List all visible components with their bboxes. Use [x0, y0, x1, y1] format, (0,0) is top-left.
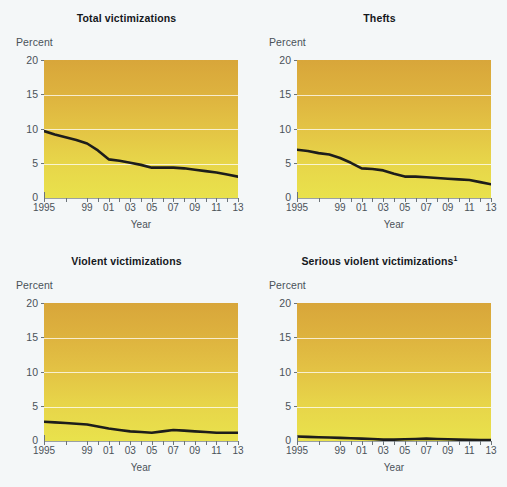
x-tick-mark-minor	[437, 441, 438, 445]
x-tick-label: 09	[189, 202, 200, 213]
x-tick-label: 09	[442, 445, 453, 456]
x-tick-label: 13	[232, 445, 243, 456]
x-tick-mark-minor	[119, 441, 120, 445]
x-tick-mark	[130, 198, 131, 202]
y-tick-label: 0	[251, 192, 291, 203]
x-tick-mark-minor	[66, 198, 67, 202]
x-tick-mark	[491, 441, 492, 445]
y-tick-mark	[294, 337, 297, 338]
x-tick-label: 07	[421, 445, 432, 456]
y-tick-label: 15	[251, 89, 291, 100]
x-tick-mark	[405, 441, 406, 445]
x-tick-mark	[426, 198, 427, 202]
y-tick-mark	[41, 372, 44, 373]
y-tick-mark	[41, 129, 44, 130]
x-tick-mark	[383, 441, 384, 445]
x-tick-mark	[152, 198, 153, 202]
x-tick-mark-minor	[206, 198, 207, 202]
x-tick-mark-minor	[163, 198, 164, 202]
x-tick-mark-minor	[372, 441, 373, 445]
x-tick-label: 03	[378, 202, 389, 213]
x-tick-mark-minor	[163, 441, 164, 445]
y-tick-label: 5	[251, 401, 291, 412]
y-tick-label: 10	[0, 124, 38, 135]
y-tick-label: 15	[0, 332, 38, 343]
y-tick-mark	[294, 60, 297, 61]
x-tick-mark	[448, 198, 449, 202]
x-tick-mark-minor	[319, 198, 320, 202]
x-tick-mark	[216, 198, 217, 202]
x-tick-mark	[173, 441, 174, 445]
x-tick-mark	[448, 441, 449, 445]
x-tick-label: 99	[335, 202, 346, 213]
x-tick-mark	[195, 198, 196, 202]
x-tick-label: 05	[399, 445, 410, 456]
x-tick-label: 13	[232, 202, 243, 213]
x-tick-label: 03	[125, 445, 136, 456]
x-tick-mark-minor	[480, 441, 481, 445]
x-tick-mark	[109, 441, 110, 445]
x-tick-label: 13	[485, 445, 496, 456]
x-tick-label: 05	[146, 445, 157, 456]
x-tick-mark	[469, 198, 470, 202]
y-tick-label: 20	[251, 298, 291, 309]
x-tick-mark-minor	[394, 198, 395, 202]
x-tick-mark-minor	[351, 441, 352, 445]
x-tick-mark-minor	[351, 198, 352, 202]
x-tick-label: 1995	[286, 202, 308, 213]
y-tick-label: 15	[251, 332, 291, 343]
y-tick-mark	[294, 163, 297, 164]
x-tick-mark-minor	[227, 441, 228, 445]
x-tick-label: 05	[399, 202, 410, 213]
y-tick-label: 0	[0, 192, 38, 203]
chart-panel-total-victimizations: Total victimizations Percent 20 15 10 5 …	[0, 0, 253, 243]
x-tick-mark-minor	[141, 441, 142, 445]
x-tick-label: 05	[146, 202, 157, 213]
x-tick-mark	[491, 198, 492, 202]
x-tick-mark-minor	[184, 198, 185, 202]
y-tick-label: 0	[0, 435, 38, 446]
x-tick-mark-minor	[119, 198, 120, 202]
y-tick-label: 0	[251, 435, 291, 446]
x-tick-mark	[109, 198, 110, 202]
x-tick-mark	[297, 441, 298, 445]
x-tick-mark-minor	[66, 441, 67, 445]
x-axis-label: Year	[44, 219, 238, 230]
y-tick-mark	[41, 406, 44, 407]
x-tick-mark-minor	[98, 441, 99, 445]
y-tick-label: 10	[251, 124, 291, 135]
x-tick-mark-minor	[184, 441, 185, 445]
x-tick-label: 11	[211, 445, 221, 456]
x-tick-mark	[238, 198, 239, 202]
x-axis-label: Year	[44, 462, 238, 473]
x-tick-mark	[130, 441, 131, 445]
x-tick-label: 09	[189, 445, 200, 456]
x-tick-label: 03	[125, 202, 136, 213]
y-tick-mark	[294, 129, 297, 130]
y-tick-mark	[41, 163, 44, 164]
x-tick-mark-minor	[141, 198, 142, 202]
y-tick-mark	[294, 406, 297, 407]
y-tick-mark	[294, 94, 297, 95]
x-tick-label: 11	[211, 202, 221, 213]
x-tick-mark-minor	[459, 441, 460, 445]
x-tick-mark-minor	[437, 198, 438, 202]
x-tick-label: 01	[103, 202, 114, 213]
x-tick-mark	[469, 441, 470, 445]
y-tick-label: 10	[0, 367, 38, 378]
x-tick-mark	[340, 198, 341, 202]
x-tick-mark-minor	[416, 198, 417, 202]
x-tick-label: 01	[356, 445, 367, 456]
y-tick-mark	[41, 60, 44, 61]
y-tick-label: 20	[0, 55, 38, 66]
x-tick-mark	[152, 441, 153, 445]
x-tick-label: 99	[82, 445, 93, 456]
x-tick-label: 03	[378, 445, 389, 456]
x-tick-mark	[405, 198, 406, 202]
x-tick-label: 1995	[286, 445, 308, 456]
x-tick-label: 01	[356, 202, 367, 213]
chart-panel-thefts: Thefts Percent 20 15 10 5 0 199599010305…	[253, 0, 506, 243]
x-tick-mark	[195, 441, 196, 445]
x-tick-label: 99	[335, 445, 346, 456]
x-axis-label: Year	[297, 219, 491, 230]
